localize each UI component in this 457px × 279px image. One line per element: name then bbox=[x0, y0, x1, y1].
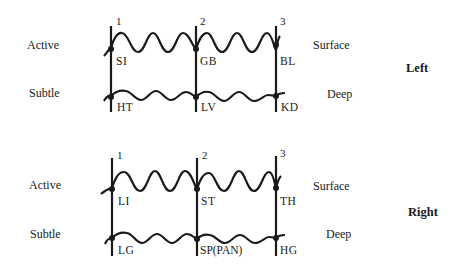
junction-dot bbox=[108, 94, 114, 100]
column-number-1: 1 bbox=[116, 16, 122, 27]
junction-dot bbox=[194, 236, 200, 242]
panel-right: Active Subtle Surface Deep Right 1 2 3 L… bbox=[0, 139, 457, 279]
row-label-active: Active bbox=[27, 39, 59, 51]
column-number-3: 3 bbox=[280, 148, 286, 159]
point-label-bl: BL bbox=[280, 56, 296, 68]
column-number-1: 1 bbox=[117, 150, 123, 161]
point-label-si: SI bbox=[116, 56, 127, 68]
wave-diagram-right bbox=[0, 139, 457, 279]
junction-dot bbox=[273, 93, 279, 99]
row-label-active: Active bbox=[29, 179, 61, 191]
point-label-li: LI bbox=[118, 196, 130, 208]
row-label-subtle: Subtle bbox=[30, 228, 61, 240]
junction-dot bbox=[193, 46, 199, 52]
row-label-deep: Deep bbox=[327, 88, 352, 100]
panel-left: Active Subtle Surface Deep Left 1 2 3 SI… bbox=[0, 0, 457, 140]
junction-dot bbox=[273, 42, 279, 48]
point-label-hg: HG bbox=[280, 245, 298, 257]
point-label-sp-pan: SP(PAN) bbox=[200, 245, 242, 257]
junction-dot bbox=[109, 235, 115, 241]
point-label-lv: LV bbox=[201, 102, 216, 114]
point-label-gb: GB bbox=[200, 56, 217, 68]
point-label-st: ST bbox=[201, 196, 215, 208]
column-number-2: 2 bbox=[202, 150, 208, 161]
side-label-right: Right bbox=[408, 206, 438, 219]
junction-dot bbox=[194, 186, 200, 192]
point-label-th: TH bbox=[280, 196, 296, 208]
point-label-lg: LG bbox=[118, 245, 134, 257]
wave-diagram-left bbox=[0, 0, 457, 140]
active-wave bbox=[104, 33, 280, 56]
active-wave bbox=[101, 171, 281, 194]
point-label-kd: KD bbox=[281, 102, 299, 114]
junction-dot bbox=[108, 46, 114, 52]
junction-dot bbox=[109, 186, 115, 192]
row-label-surface: Surface bbox=[313, 180, 350, 192]
row-label-surface: Surface bbox=[313, 39, 350, 51]
side-label-left: Left bbox=[406, 62, 428, 75]
column-number-3: 3 bbox=[280, 16, 286, 27]
row-label-subtle: Subtle bbox=[29, 87, 60, 99]
junction-dot bbox=[273, 185, 279, 191]
column-number-2: 2 bbox=[200, 16, 206, 27]
junction-dot bbox=[273, 235, 279, 241]
point-label-ht: HT bbox=[117, 102, 133, 114]
junction-dot bbox=[193, 94, 199, 100]
row-label-deep: Deep bbox=[326, 228, 351, 240]
